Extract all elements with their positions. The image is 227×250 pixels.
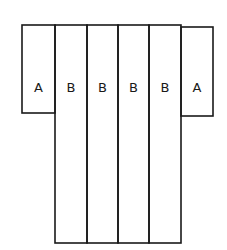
panel-body-2 <box>87 25 118 243</box>
panel-body-3 <box>118 25 149 243</box>
panel-label-left-sleeve: A <box>34 80 43 95</box>
pattern-diagram: ABBBBA <box>0 0 227 250</box>
panel-label-right-sleeve: A <box>193 80 202 95</box>
panel-body-4 <box>149 25 181 243</box>
panel-label-body-3: B <box>129 80 138 95</box>
panel-label-body-4: B <box>161 80 170 95</box>
panel-label-body-2: B <box>98 80 107 95</box>
panel-body-1 <box>55 25 87 243</box>
panel-left-sleeve <box>22 25 55 113</box>
panel-right-sleeve <box>181 27 213 116</box>
panel-label-body-1: B <box>67 80 76 95</box>
